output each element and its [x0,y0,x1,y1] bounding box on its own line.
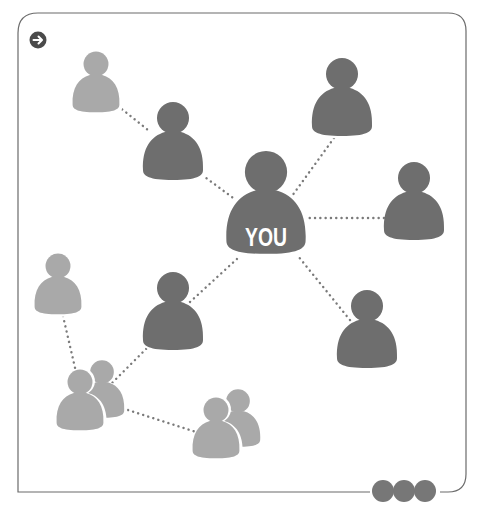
more-dots-icon[interactable] [370,480,440,502]
you-label: YOU [245,223,287,251]
group-bottom-center[interactable] [192,388,263,461]
link-far-top-left-to-top-left [118,106,148,130]
link-middle-left-to-group [110,345,150,385]
person-contact-far-left[interactable] [34,252,84,317]
person-friend-middle-left[interactable] [143,270,207,353]
arrow-right-icon[interactable] [30,32,47,49]
link-far-left-to-group [63,316,76,372]
link-top-right-to-you [292,138,334,196]
person-friend-bottom-right[interactable] [337,288,401,371]
group-bottom-left[interactable] [56,359,127,433]
link-bottom-right-to-you [298,256,350,320]
link-middle-left-to-you [190,258,238,302]
person-friend-top-right[interactable] [312,56,376,139]
link-group-to-group [128,410,196,432]
person-contact-far-top-left[interactable] [72,50,122,115]
person-friend-right[interactable] [384,160,448,243]
person-friend-top-left[interactable] [143,100,207,183]
network-diagram: YOU [0,0,480,516]
